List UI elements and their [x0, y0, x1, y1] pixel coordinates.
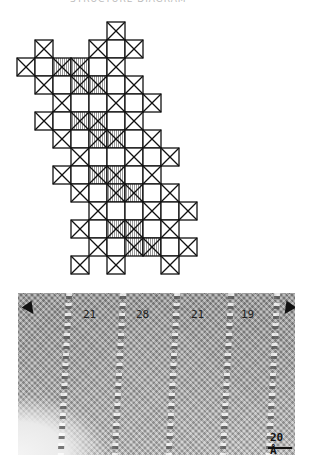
hatched-square [53, 58, 71, 76]
crossed-square [107, 58, 125, 76]
empty-square [125, 202, 143, 220]
hatched-square [89, 76, 107, 94]
crossed-square [35, 40, 53, 58]
arrowhead-right-icon [280, 301, 295, 318]
tiling-diagram [0, 0, 311, 285]
hatched-square [107, 184, 125, 202]
crossed-square [125, 76, 143, 94]
crossed-square [107, 22, 125, 40]
hatched-square [143, 238, 161, 256]
empty-square [35, 58, 53, 76]
crossed-square [53, 166, 71, 184]
hatched-square [71, 76, 89, 94]
crossed-square [161, 256, 179, 274]
empty-square [107, 202, 125, 220]
crossed-square [125, 148, 143, 166]
empty-square [125, 130, 143, 148]
crossed-square [161, 220, 179, 238]
hatched-square [107, 130, 125, 148]
hatched-square [125, 220, 143, 238]
defect-row [220, 293, 234, 455]
empty-square [89, 184, 107, 202]
empty-square [125, 94, 143, 112]
crossed-square [53, 94, 71, 112]
crossed-square [143, 130, 161, 148]
spacing-label: 19 [241, 308, 254, 321]
hatched-square [125, 184, 143, 202]
crossed-square [143, 202, 161, 220]
defect-row [58, 293, 72, 455]
scale-bar-label: 20 Å [270, 431, 295, 455]
crossed-square [107, 256, 125, 274]
empty-square [107, 112, 125, 130]
crossed-square [89, 40, 107, 58]
crossed-square [89, 238, 107, 256]
crossed-square [125, 112, 143, 130]
empty-square [71, 130, 89, 148]
scale-bar [268, 447, 292, 449]
empty-square [107, 40, 125, 58]
empty-square [89, 148, 107, 166]
empty-square [71, 166, 89, 184]
hatched-square [89, 166, 107, 184]
crossed-square [107, 94, 125, 112]
empty-square [161, 202, 179, 220]
spacing-label: 21 [191, 308, 204, 321]
empty-square [161, 238, 179, 256]
crossed-square [35, 112, 53, 130]
crossed-square [125, 40, 143, 58]
empty-square [89, 220, 107, 238]
empty-square [143, 220, 161, 238]
electron-micrograph: 21 28 21 19 20 Å [18, 293, 295, 455]
empty-square [143, 148, 161, 166]
spacing-label: 21 [83, 308, 96, 321]
crossed-square [17, 58, 35, 76]
spacing-label: 28 [136, 308, 149, 321]
defect-row [112, 293, 126, 455]
empty-square [107, 238, 125, 256]
empty-square [143, 184, 161, 202]
empty-square [53, 76, 71, 94]
crossed-square [53, 130, 71, 148]
empty-square [107, 148, 125, 166]
hatched-square [89, 112, 107, 130]
crossed-square [35, 76, 53, 94]
crossed-square [143, 94, 161, 112]
hatched-square [71, 58, 89, 76]
crossed-square [179, 202, 197, 220]
hatched-square [125, 238, 143, 256]
hatched-square [107, 166, 125, 184]
crossed-square [89, 202, 107, 220]
crossed-square [179, 238, 197, 256]
crossed-square [71, 220, 89, 238]
crossed-square [71, 184, 89, 202]
empty-square [89, 58, 107, 76]
hatched-square [71, 112, 89, 130]
empty-square [107, 76, 125, 94]
crossed-square [161, 184, 179, 202]
empty-square [89, 94, 107, 112]
defect-row [166, 293, 180, 455]
hatched-square [107, 220, 125, 238]
empty-square [125, 166, 143, 184]
arrowhead-left-icon [22, 301, 39, 318]
crossed-square [143, 166, 161, 184]
crossed-square [71, 148, 89, 166]
hatched-square [89, 130, 107, 148]
crossed-square [161, 148, 179, 166]
crossed-square [71, 256, 89, 274]
empty-square [53, 112, 71, 130]
empty-square [71, 94, 89, 112]
